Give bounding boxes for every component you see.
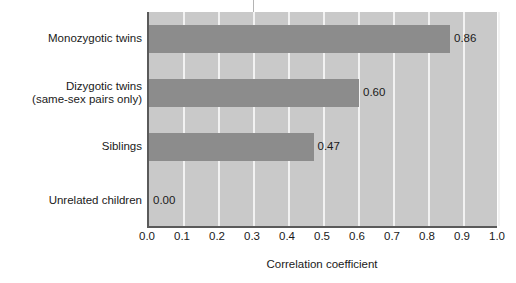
x-tick-label: 0.3 [244, 231, 260, 243]
x-axis-tick-labels: 0.00.10.20.30.40.50.60.70.80.91.0 [147, 231, 497, 247]
bar-value-label: 0.86 [454, 33, 476, 45]
bar[interactable] [149, 79, 359, 107]
bar-value-label: 0.60 [363, 87, 385, 99]
plot-inner: 0.860.600.470.00 [149, 12, 497, 226]
top-tick-mark [253, 0, 254, 12]
x-axis-title: Correlation coefficient [147, 258, 497, 270]
x-tick-label: 0.5 [314, 231, 330, 243]
x-tick-label: 0.6 [349, 231, 365, 243]
bar-value-label: 0.00 [153, 195, 175, 207]
x-tick-label: 0.8 [419, 231, 435, 243]
bar-value-label: 0.47 [318, 141, 340, 153]
x-tick-label: 0.9 [454, 231, 470, 243]
x-tick-label: 1.0 [489, 231, 505, 243]
gridline [498, 12, 500, 226]
bar[interactable] [149, 133, 314, 161]
x-tick-label: 0.0 [139, 231, 155, 243]
plot-area: 0.860.600.470.00 [147, 12, 497, 228]
category-axis-labels: Monozygotic twinsDizygotic twins (same-s… [0, 12, 142, 228]
x-tick-label: 0.7 [384, 231, 400, 243]
x-tick-label: 0.2 [209, 231, 225, 243]
chart-screenshot: Monozygotic twinsDizygotic twins (same-s… [0, 0, 516, 283]
category-label: Unrelated children [2, 194, 142, 208]
category-label: Monozygotic twins [2, 32, 142, 46]
bar[interactable] [149, 25, 450, 53]
x-tick-label: 0.1 [174, 231, 190, 243]
x-tick-label: 0.4 [279, 231, 295, 243]
category-label: Siblings [2, 140, 142, 154]
category-label: Dizygotic twins (same-sex pairs only) [2, 80, 142, 107]
